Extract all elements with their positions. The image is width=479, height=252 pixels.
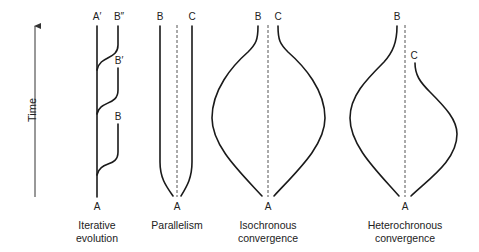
label-b: B (255, 11, 262, 22)
caption-line2: convergence (375, 232, 435, 244)
label-b: B (115, 111, 122, 122)
panel-isochronous-convergence: B C A Isochronous convergence (212, 11, 325, 244)
label-b: B (157, 11, 164, 22)
label-a: A (94, 201, 101, 212)
lineage-c (274, 26, 325, 196)
time-axis-label: Time (26, 98, 38, 122)
panel-heterochronous-convergence: B C A Heterochronous convergence (350, 11, 457, 244)
lineage-b (160, 26, 173, 196)
label-b-double-prime: B″ (114, 11, 125, 22)
label-c: C (410, 50, 417, 61)
branch-b (97, 124, 118, 175)
label-c: C (188, 11, 195, 22)
evolution-patterns-diagram: Time A′ B″ B′ B A Iterative evolution B … (0, 0, 479, 252)
branch-b-prime (97, 68, 118, 114)
caption-line1: Iterative (78, 219, 116, 231)
caption-line1: Heterochronous (368, 219, 443, 231)
lineage-b (350, 26, 399, 196)
label-a: A (174, 201, 181, 212)
caption-line1: Parallelism (151, 219, 203, 231)
panel-parallelism: B C A Parallelism (151, 11, 203, 231)
panel-iterative-evolution: A′ B″ B′ B A Iterative evolution (76, 11, 125, 244)
label-c: C (274, 11, 281, 22)
label-b-prime: B′ (115, 55, 124, 66)
label-a: A (402, 201, 409, 212)
time-axis: Time (26, 26, 38, 197)
lineage-b (212, 26, 262, 196)
label-a: A (265, 201, 272, 212)
lineage-c (411, 63, 457, 196)
caption-line2: evolution (76, 232, 118, 244)
lineage-c (181, 26, 192, 196)
label-a-prime: A′ (93, 11, 102, 22)
caption-line1: Isochronous (239, 219, 296, 231)
caption-line2: convergence (238, 232, 298, 244)
label-b: B (394, 11, 401, 22)
